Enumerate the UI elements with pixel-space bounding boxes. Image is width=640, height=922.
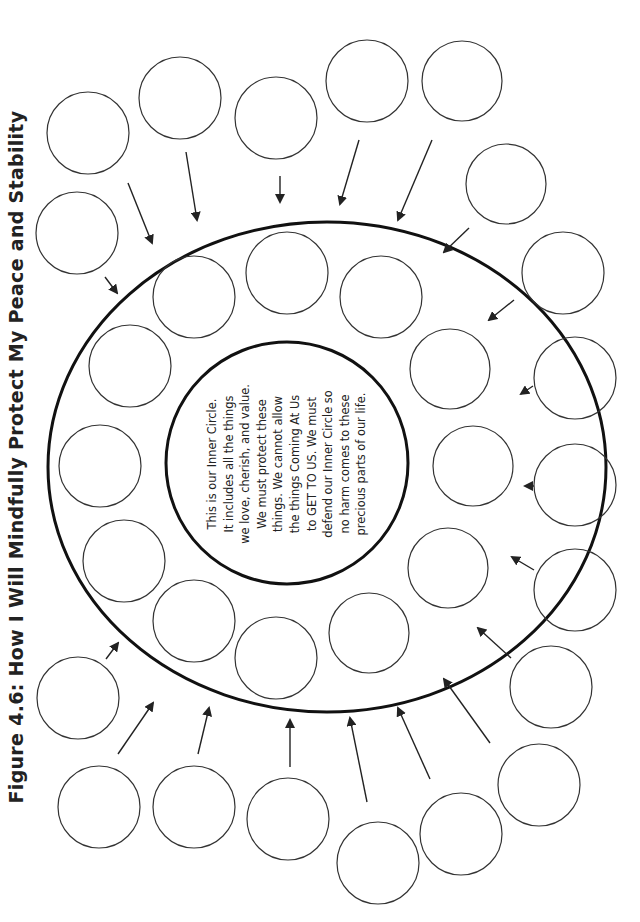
outer-threat-circle[interactable] xyxy=(58,766,140,848)
outer-threat-circle[interactable] xyxy=(420,793,502,875)
inner-value-circle[interactable] xyxy=(246,232,328,314)
inner-text-line: to GET TO US. We must xyxy=(304,384,321,544)
arrow-icon xyxy=(444,679,490,743)
inner-value-circle[interactable] xyxy=(59,425,141,507)
inner-text-line: It includes all the things xyxy=(221,384,238,544)
inner-text-line: precious parts of our life. xyxy=(353,384,370,544)
inner-text-line: We must protect these xyxy=(254,384,271,544)
inner-value-circle[interactable] xyxy=(340,256,422,338)
inner-text-line: the things Coming At Us xyxy=(287,384,304,544)
arrow-icon xyxy=(118,703,153,754)
arrow-icon xyxy=(105,277,117,293)
inner-value-circle[interactable] xyxy=(235,617,317,699)
arrow-icon xyxy=(512,557,534,570)
inner-text-line: we love, cherish, and value. xyxy=(237,384,254,544)
inner-value-circle[interactable] xyxy=(83,520,165,602)
outer-threat-circle[interactable] xyxy=(498,744,580,826)
inner-value-circle[interactable] xyxy=(153,256,235,338)
arrow-icon xyxy=(350,718,367,802)
arrow-icon xyxy=(128,183,152,243)
arrow-icon xyxy=(198,708,209,754)
inner-text-line: things. We cannot allow xyxy=(270,384,287,544)
inner-value-circle[interactable] xyxy=(153,580,235,662)
outer-threat-circle[interactable] xyxy=(247,778,329,860)
outer-threat-circle[interactable] xyxy=(466,144,546,224)
inner-value-circle[interactable] xyxy=(329,593,409,673)
arrow-icon xyxy=(398,708,430,779)
inner-value-circle[interactable] xyxy=(408,528,488,608)
outer-threat-circle[interactable] xyxy=(326,40,408,122)
arrow-icon xyxy=(106,643,118,659)
arrow-icon xyxy=(489,300,514,320)
arrow-icon xyxy=(340,140,359,204)
outer-threat-circle[interactable] xyxy=(37,657,119,739)
arrow-icon xyxy=(398,140,432,220)
arrow-icon xyxy=(521,386,533,394)
inner-text-line: This is our Inner Circle. xyxy=(204,384,221,544)
outer-threat-circle[interactable] xyxy=(522,232,604,314)
outer-threat-circle[interactable] xyxy=(235,77,317,159)
inner-value-circle[interactable] xyxy=(433,426,513,506)
inner-value-circle[interactable] xyxy=(410,329,490,409)
inner-text-line: defend our Inner Circle so xyxy=(320,384,337,544)
inner-text-line: no harm comes to these xyxy=(337,384,354,544)
outer-threat-circle[interactable] xyxy=(510,646,592,728)
arrow-icon xyxy=(478,628,511,658)
outer-threat-circle[interactable] xyxy=(47,92,129,174)
outer-threat-circle[interactable] xyxy=(534,549,616,631)
outer-threat-circle[interactable] xyxy=(337,822,419,904)
outer-threat-circle[interactable] xyxy=(36,192,118,274)
inner-value-circle[interactable] xyxy=(89,325,171,407)
outer-threat-circle[interactable] xyxy=(139,57,221,139)
arrow-icon xyxy=(186,152,197,220)
outer-threat-circle[interactable] xyxy=(422,41,502,121)
figure-title: Figure 4.6: How I Will Mindfully Protect… xyxy=(5,111,27,804)
outer-threat-circle[interactable] xyxy=(534,337,616,419)
outer-threat-circle[interactable] xyxy=(534,444,616,526)
inner-circle-text: This is our Inner Circle. It includes al… xyxy=(204,384,370,544)
outer-threat-circle[interactable] xyxy=(153,766,235,848)
